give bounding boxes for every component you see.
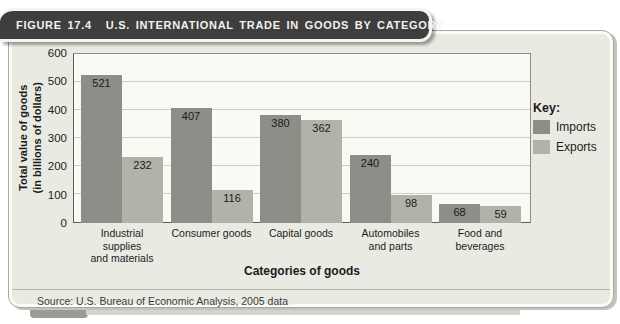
y-tick-label: 0 xyxy=(29,216,67,230)
bar-value-label: 232 xyxy=(122,159,163,171)
category-label: Industrial supplies and materials xyxy=(81,227,163,265)
x-axis-title: Categories of goods xyxy=(73,264,531,278)
figure: Total value of goods (in billions of dol… xyxy=(0,0,620,324)
bar-imports: 240 xyxy=(350,155,391,223)
y-tick-label: 400 xyxy=(29,103,67,117)
bar-value-label: 59 xyxy=(480,208,521,220)
bar-imports: 68 xyxy=(439,204,480,223)
category-label: Consumer goods xyxy=(171,227,253,265)
bar-value-label: 521 xyxy=(81,77,122,89)
bar-value-label: 116 xyxy=(212,192,253,204)
bar-value-label: 407 xyxy=(171,110,212,122)
legend-label-exports: Exports xyxy=(556,140,597,154)
legend-item-exports: Exports xyxy=(533,140,617,154)
bar-exports: 98 xyxy=(391,195,432,223)
category-label: Capital goods xyxy=(260,227,342,265)
y-tick-label: 100 xyxy=(29,188,67,202)
bar-imports: 521 xyxy=(81,75,122,223)
imports-swatch-icon xyxy=(533,120,550,134)
category-label: Food and beverages xyxy=(439,227,521,265)
bar-value-label: 240 xyxy=(350,157,391,169)
bar-exports: 59 xyxy=(480,206,521,223)
source-text: Source: U.S. Bureau of Economic Analysis… xyxy=(37,295,603,307)
bar-exports: 116 xyxy=(212,190,253,223)
bar-value-label: 68 xyxy=(439,206,480,218)
bar-imports: 380 xyxy=(260,115,301,223)
legend-item-imports: Imports xyxy=(533,120,617,134)
bar-group: 24098 xyxy=(350,155,432,223)
exports-swatch-icon xyxy=(533,140,550,154)
figure-number: FIGURE 17.4 xyxy=(16,19,92,31)
bar-groups: 521232407116380362240986859 xyxy=(73,53,531,223)
figure-title: U.S. INTERNATIONAL TRADE IN GOODS BY CAT… xyxy=(106,19,444,31)
figure-header: FIGURE 17.4 U.S. INTERNATIONAL TRADE IN … xyxy=(0,8,432,42)
legend-label-imports: Imports xyxy=(556,120,596,134)
bar-imports: 407 xyxy=(171,108,212,223)
bar-group: 6859 xyxy=(439,204,521,223)
y-tick-label: 600 xyxy=(29,46,67,60)
y-tick-label: 300 xyxy=(29,131,67,145)
category-label: Automobiles and parts xyxy=(350,227,432,265)
y-tick-label: 200 xyxy=(29,159,67,173)
source-divider xyxy=(12,289,610,290)
bar-value-label: 380 xyxy=(260,117,301,129)
bar-group: 407116 xyxy=(171,108,253,223)
bar-group: 380362 xyxy=(260,115,342,223)
legend: Key: Imports Exports xyxy=(533,101,617,160)
figure-panel: Total value of goods (in billions of dol… xyxy=(8,30,614,308)
y-tick-label: 500 xyxy=(29,74,67,88)
bar-value-label: 362 xyxy=(301,122,342,134)
category-labels: Industrial supplies and materialsConsume… xyxy=(73,227,531,265)
y-axis-ticks: 0100200300400500600 xyxy=(29,53,67,223)
bar-exports: 232 xyxy=(122,157,163,223)
legend-title: Key: xyxy=(533,101,617,115)
bar-exports: 362 xyxy=(301,120,342,223)
bar-group: 521232 xyxy=(81,75,163,223)
bar-value-label: 98 xyxy=(391,197,432,209)
